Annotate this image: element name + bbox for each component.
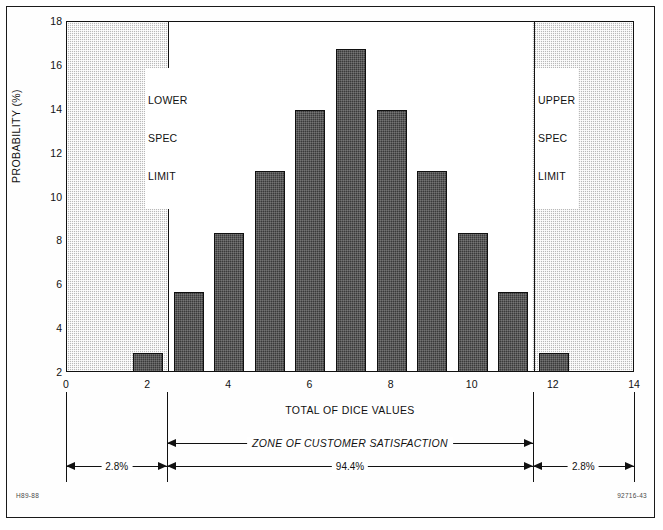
y-axis-ticks: 24681012141618 xyxy=(18,21,62,372)
y-tick-label: 12 xyxy=(22,147,62,159)
y-tick-label: 16 xyxy=(22,59,62,71)
upper-spec-limit-line1: UPPER xyxy=(538,94,575,107)
x-axis-title: TOTAL OF DICE VALUES xyxy=(66,404,634,416)
bar xyxy=(417,171,447,371)
bar xyxy=(214,233,244,371)
y-tick-label: 6 xyxy=(22,278,62,290)
bar xyxy=(174,292,204,371)
y-tick-label: 2 xyxy=(22,366,62,378)
center-accept-arrow-right xyxy=(524,462,533,470)
center-accept-arrow-left xyxy=(167,462,176,470)
y-tick-label: 10 xyxy=(22,191,62,203)
y-axis-title: PROBABILITY (%) xyxy=(10,51,22,221)
bar xyxy=(336,49,366,371)
x-axis-ticks: 02468101214 xyxy=(66,374,634,396)
left-reject-percent-label: 2.8% xyxy=(101,461,132,472)
right-reject-arrow-left xyxy=(533,462,542,470)
lower-spec-limit-line2: SPEC xyxy=(148,132,188,145)
lower-spec-limit-label: LOWER SPEC LIMIT xyxy=(145,68,191,209)
y-tick-label: 8 xyxy=(22,234,62,246)
x-tick-label: 12 xyxy=(533,378,573,390)
upper-spec-limit-label: UPPER SPEC LIMIT xyxy=(535,68,578,209)
right-reject-arrow-right xyxy=(625,462,634,470)
x-tick-label: 8 xyxy=(371,378,411,390)
x-tick-label: 4 xyxy=(208,378,248,390)
right-reject-percent-label: 2.8% xyxy=(568,461,599,472)
y-tick-label: 4 xyxy=(22,322,62,334)
upper-spec-limit-line2: SPEC xyxy=(538,132,575,145)
figure-root: LOWER SPEC LIMIT UPPER SPEC LIMIT 246810… xyxy=(0,0,663,530)
x-tick-label: 6 xyxy=(289,378,329,390)
zone-of-satisfaction-label: ZONE OF CUSTOMER SATISFACTION xyxy=(247,437,453,449)
bar xyxy=(539,353,569,371)
corner-code-right: 92716-43 xyxy=(617,492,647,499)
x-tick-label: 2 xyxy=(127,378,167,390)
left-reject-arrow-right xyxy=(158,462,167,470)
bar xyxy=(458,233,488,371)
center-accept-percent-label: 94.4% xyxy=(332,461,368,472)
zone-arrow-left xyxy=(167,439,176,447)
y-tick-label: 18 xyxy=(22,15,62,27)
x-tick-label: 0 xyxy=(46,378,86,390)
extension-line-x14 xyxy=(634,392,635,482)
x-tick-label: 10 xyxy=(452,378,492,390)
bar xyxy=(255,171,285,371)
zone-arrow-right xyxy=(524,439,533,447)
bar xyxy=(498,292,528,371)
left-reject-arrow-left xyxy=(66,462,75,470)
lower-spec-limit-line1: LOWER xyxy=(148,94,188,107)
y-tick-label: 14 xyxy=(22,103,62,115)
bar xyxy=(377,110,407,371)
corner-code-left: H89-88 xyxy=(16,492,39,499)
upper-spec-limit-line3: LIMIT xyxy=(538,170,575,183)
x-tick-label: 14 xyxy=(614,378,654,390)
bar xyxy=(133,353,163,371)
lower-spec-limit-line3: LIMIT xyxy=(148,170,188,183)
bar xyxy=(295,110,325,371)
